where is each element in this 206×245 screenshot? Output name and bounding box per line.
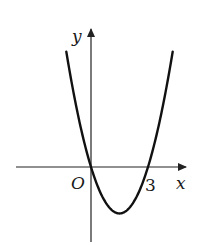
- origin-label: O: [71, 173, 85, 193]
- parabola-chart: y x O 3: [0, 0, 206, 245]
- x-axis-label: x: [176, 173, 186, 193]
- y-axis-label: y: [71, 26, 82, 46]
- tick-label-3: 3: [145, 175, 156, 195]
